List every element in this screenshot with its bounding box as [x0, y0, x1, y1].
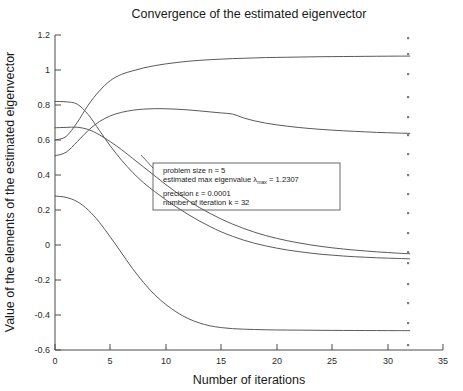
chart-title: Convergence of the estimated eigenvector [132, 7, 367, 21]
scan-speck [407, 322, 409, 324]
y-axis-label: Value of the elements of the estimated e… [3, 52, 17, 333]
y-tick-label: 0.4 [37, 170, 50, 180]
y-tick-label: -0.4 [34, 310, 50, 320]
scan-speck [407, 193, 409, 195]
y-tick-label: 0.6 [37, 135, 50, 145]
scan-speck [407, 174, 409, 176]
annotation-line-2-main: estimated max eigenvalue λ [163, 175, 257, 184]
y-tick-label: 0 [45, 240, 50, 250]
x-tick-label: 0 [52, 356, 57, 366]
x-tick-label: 25 [327, 356, 337, 366]
scan-speck [407, 251, 409, 253]
annotation-line-2: estimated max eigenvalue λmax = 1.2307 [163, 175, 299, 185]
annotation-lambda-subscript: max [257, 179, 267, 185]
scan-speck [407, 344, 409, 346]
scan-speck [407, 53, 409, 55]
annotation-line-4: number of iteration k = 32 [163, 198, 249, 207]
scan-speck [407, 73, 409, 75]
annotation-line-3: precision ε = 0.0001 [163, 189, 231, 198]
y-tick-label: 0.8 [37, 100, 50, 110]
figure-container: Convergence of the estimated eigenvector… [0, 0, 463, 391]
y-tick-label: 0.2 [37, 205, 50, 215]
scan-speck [407, 262, 409, 264]
x-axis-label: Number of iterations [193, 373, 306, 387]
x-tick-label: 20 [272, 356, 282, 366]
scan-speck [407, 302, 409, 304]
y-tick-label: -0.6 [34, 345, 50, 355]
y-tick-label: 1 [45, 65, 50, 75]
convergence-chart: Convergence of the estimated eigenvector… [0, 0, 463, 391]
scan-speck [407, 283, 409, 285]
annotation-line-2-value: = 1.2307 [267, 175, 299, 184]
x-tick-label: 30 [383, 356, 393, 366]
x-tick-label: 5 [107, 356, 112, 366]
annotation-line-1: problem size n = 5 [163, 166, 225, 175]
y-tick-label: 1.2 [37, 30, 50, 40]
scan-speck [407, 37, 409, 39]
scan-speck [407, 96, 409, 98]
scan-speck [407, 212, 409, 214]
scan-speck [407, 153, 409, 155]
scan-speck [407, 232, 409, 234]
scan-speck [407, 134, 409, 136]
x-tick-label: 35 [438, 356, 448, 366]
y-tick-label: -0.2 [34, 275, 50, 285]
x-tick-label: 15 [216, 356, 226, 366]
x-tick-label: 10 [161, 356, 171, 366]
scan-speck [407, 116, 409, 118]
